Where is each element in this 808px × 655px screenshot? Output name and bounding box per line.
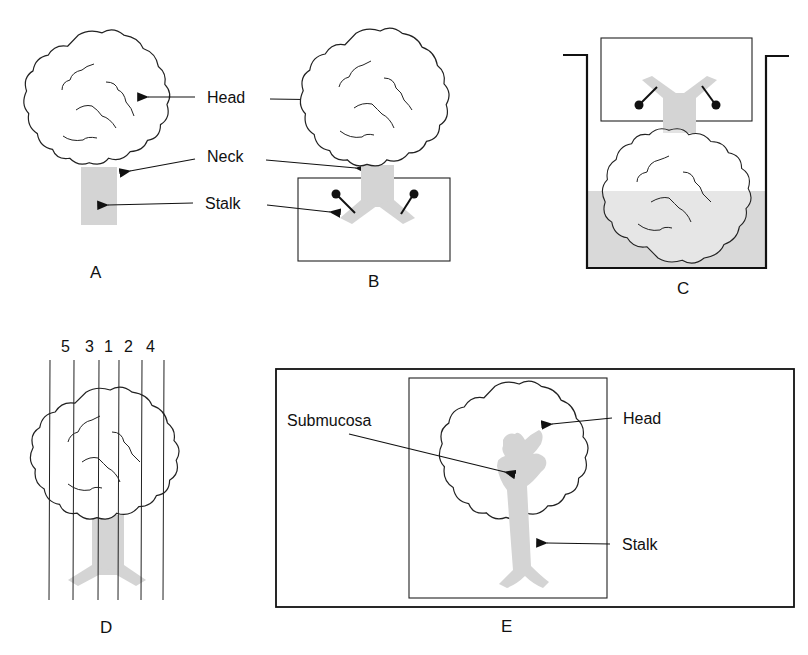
stalk-shape xyxy=(642,76,717,133)
polyp-head-shape xyxy=(300,28,449,166)
section-number-3: 3 xyxy=(85,338,94,355)
panel-label-b: B xyxy=(368,272,379,291)
panel-a: Head Neck Stalk A xyxy=(24,30,245,282)
pin-left xyxy=(635,87,658,110)
panel-label-e: E xyxy=(501,617,512,636)
label-neck: Neck xyxy=(207,148,244,165)
panel-b: B xyxy=(298,28,450,291)
panel-label-c: C xyxy=(677,279,689,298)
panel-e: Submucosa Head Stalk E xyxy=(276,369,794,636)
label-head-e: Head xyxy=(623,410,661,427)
pin-right xyxy=(702,86,721,110)
pin-right xyxy=(401,190,419,215)
section-number-5: 5 xyxy=(61,338,70,355)
section-number-2: 2 xyxy=(124,338,133,355)
section-numbers: 5 3 1 2 4 xyxy=(61,338,155,355)
panel-label-a: A xyxy=(90,263,102,282)
label-stalk: Stalk xyxy=(205,195,242,212)
polyp-sectioning-diagram: Head Neck Stalk A xyxy=(0,0,808,655)
panel-label-d: D xyxy=(100,618,112,637)
panel-d: 5 3 1 2 4 D xyxy=(30,338,179,637)
label-stalk-e: Stalk xyxy=(622,536,659,553)
section-number-1: 1 xyxy=(104,338,113,355)
label-submucosa: Submucosa xyxy=(287,412,372,429)
label-head: Head xyxy=(207,89,245,106)
section-number-4: 4 xyxy=(146,338,155,355)
stalk-shape xyxy=(68,515,146,586)
stalk-shape xyxy=(340,165,415,224)
polyp-head-shape xyxy=(24,30,170,164)
stalk-shape xyxy=(81,167,117,225)
panel-c: C xyxy=(563,38,789,298)
pin-left xyxy=(332,190,356,214)
polyp-head-shape xyxy=(30,387,179,519)
